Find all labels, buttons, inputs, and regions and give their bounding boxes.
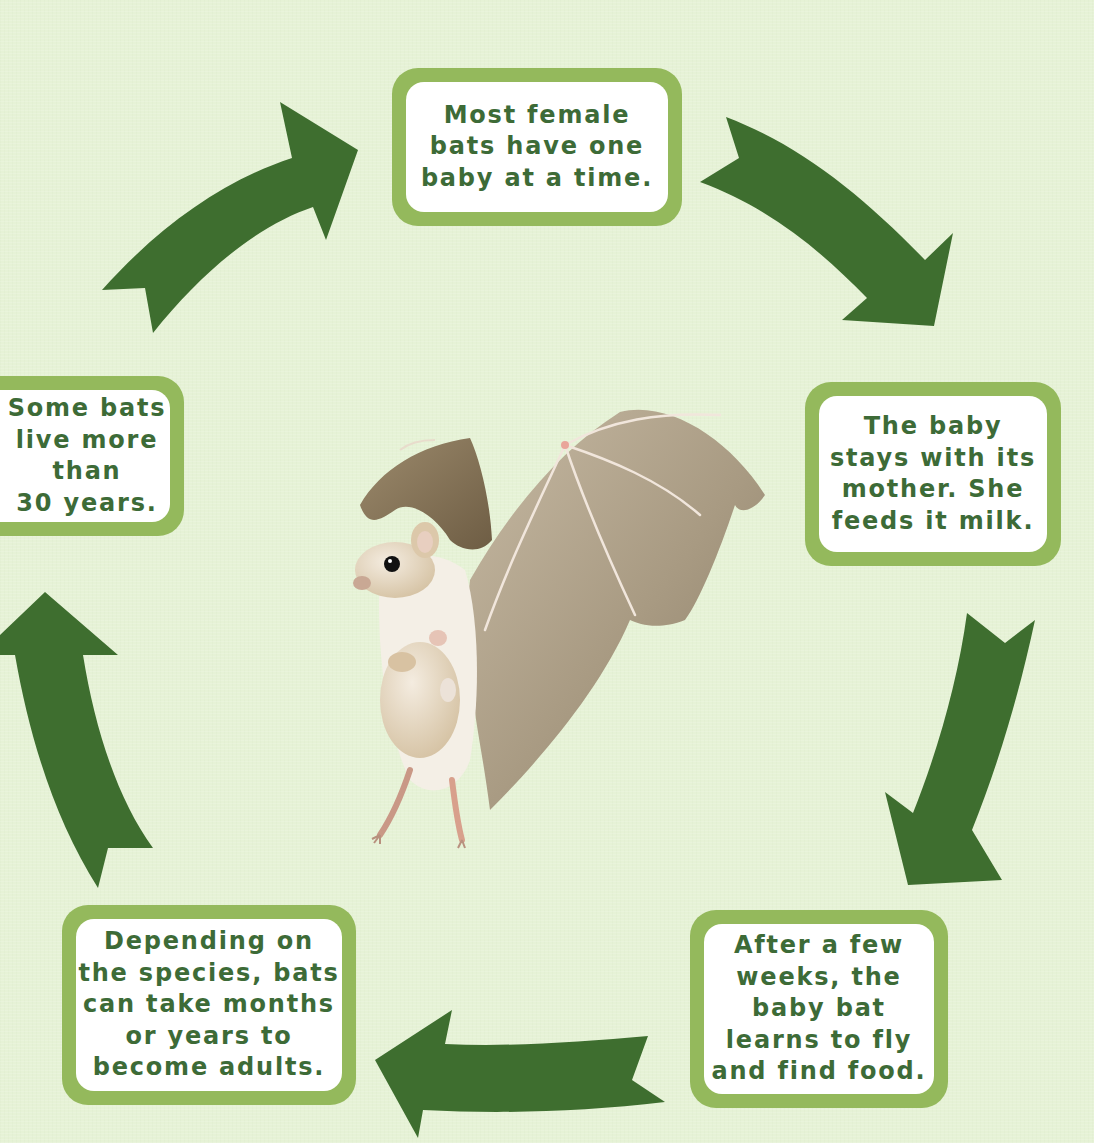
stage-text-nursing: The baby stays with its mother. She feed… bbox=[819, 396, 1047, 552]
stage-box-lifespan: Some bats live more than 30 years. bbox=[0, 376, 184, 536]
bat-life-cycle-diagram: Most female bats have one baby at a time… bbox=[0, 0, 1094, 1143]
arrow-nursing-to-flying-icon bbox=[885, 613, 1035, 885]
bat-right-wing-icon bbox=[467, 410, 765, 810]
stage-box-birth: Most female bats have one baby at a time… bbox=[392, 68, 682, 226]
stage-text-lifespan: Some bats live more than 30 years. bbox=[0, 390, 170, 522]
stage-box-flying: After a few weeks, the baby bat learns t… bbox=[690, 910, 948, 1108]
arrow-lifespan-to-birth-icon bbox=[102, 102, 358, 333]
arrow-maturing-to-lifespan-icon bbox=[0, 592, 153, 888]
bat-eye-icon bbox=[384, 556, 400, 572]
stage-text-maturing: Depending on the species, bats can take … bbox=[76, 919, 342, 1091]
bat-with-baby-illustration bbox=[340, 400, 770, 850]
stage-box-nursing: The baby stays with its mother. She feed… bbox=[805, 382, 1061, 566]
arrow-flying-to-maturing-icon bbox=[375, 1010, 665, 1138]
arrow-birth-to-nursing-icon bbox=[700, 117, 953, 326]
stage-box-maturing: Depending on the species, bats can take … bbox=[62, 905, 356, 1105]
stage-text-birth: Most female bats have one baby at a time… bbox=[406, 82, 668, 212]
stage-text-flying: After a few weeks, the baby bat learns t… bbox=[704, 924, 934, 1094]
